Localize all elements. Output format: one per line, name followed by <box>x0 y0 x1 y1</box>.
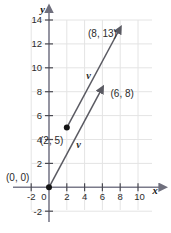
y-tick-label-6: 6 <box>37 110 42 121</box>
y-axis-label: y <box>38 4 45 15</box>
x-tick-label-6: 6 <box>100 191 105 202</box>
y-tick-label-2: 2 <box>37 158 42 169</box>
point-label-2-5: (2, 5) <box>40 135 63 146</box>
x-tick-label-8: 8 <box>118 191 123 202</box>
vector-label-lower: v <box>76 139 81 150</box>
x-tick-label-10: 10 <box>134 191 145 202</box>
point-label-6-8: (6, 8) <box>111 88 134 99</box>
x-tick-label-neg2: -2 <box>27 191 35 202</box>
y-tick-label-10: 10 <box>31 62 42 73</box>
vector-upper-arrow <box>67 33 118 128</box>
x-tick-label-0: 0 <box>41 191 46 202</box>
vector-label-upper: v <box>86 70 91 81</box>
point-label-origin: (0, 0) <box>6 172 29 183</box>
x-tick-label-4: 4 <box>82 191 87 202</box>
point-marker-origin <box>46 184 52 190</box>
point-label-8-13: (8, 13) <box>88 28 117 39</box>
point-marker-2-5 <box>64 125 70 131</box>
x-tick-label-2: 2 <box>64 191 69 202</box>
y-tick-label-14: 14 <box>31 14 42 25</box>
vector-graph-figure: 14 12 10 8 6 4 2 -2 -2 0 2 4 6 8 10 y x … <box>0 0 171 233</box>
y-tick-label-12: 12 <box>31 38 42 49</box>
x-axis-label: x <box>152 185 158 196</box>
y-tick-label-8: 8 <box>37 86 42 97</box>
y-tick-label-neg2: -2 <box>34 206 42 217</box>
coordinate-plane-svg: 14 12 10 8 6 4 2 -2 -2 0 2 4 6 8 10 y x … <box>0 0 171 233</box>
